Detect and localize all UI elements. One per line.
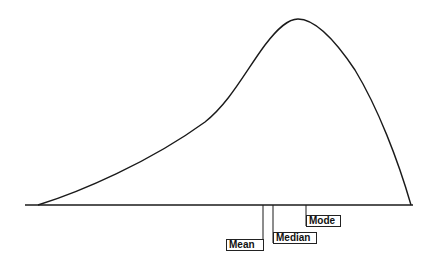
median-label: Median <box>273 232 317 244</box>
distribution-curve <box>38 19 411 205</box>
mean-label: Mean <box>226 239 264 251</box>
mode-label: Mode <box>306 215 341 227</box>
skewed-distribution-diagram <box>0 0 434 262</box>
